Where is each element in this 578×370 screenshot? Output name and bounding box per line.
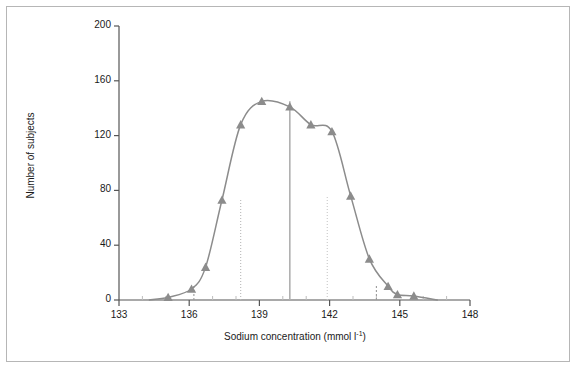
data-point-marker [217,195,226,203]
distribution-curve [149,100,437,300]
data-point-marker [285,102,294,110]
y-tick-label: 40 [71,238,111,249]
chart-canvas: Number of subjects Sodium concentration … [0,0,578,370]
x-tick-label: 142 [310,309,350,320]
data-point-marker [236,120,245,128]
y-tick-label: 160 [71,74,111,85]
x-axis-label-text: Sodium concentration (mmol l [224,331,356,342]
data-point-marker [346,191,355,199]
y-tick-label: 200 [71,19,111,30]
x-tick-label: 145 [380,309,420,320]
y-tick-label: 120 [71,129,111,140]
y-tick-label: 80 [71,183,111,194]
x-axis-label: Sodium concentration (mmol l-1) [119,330,471,342]
y-tick-label: 0 [71,293,111,304]
data-point-marker [365,254,374,262]
x-tick-label: 148 [450,309,490,320]
data-point-marker [393,290,402,298]
y-axis-label: Number of subjects [25,86,36,226]
data-point-marker [201,263,210,271]
x-tick-label: 133 [99,309,139,320]
x-axis-label-tail: ) [363,331,366,342]
x-tick-label: 139 [239,309,279,320]
x-tick-label: 136 [169,309,209,320]
